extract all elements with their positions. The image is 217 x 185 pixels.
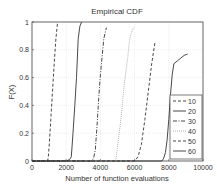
y-tick-label: 0.2 — [19, 130, 29, 137]
series-10-line — [32, 22, 58, 161]
series-50-line — [32, 42, 155, 162]
y-axis-label: F(X) — [7, 84, 16, 99]
x-tick-label: 6000 — [127, 164, 143, 171]
x-tick-label: 4000 — [93, 164, 109, 171]
y-tick-label: 1 — [25, 19, 29, 26]
legend-box — [170, 95, 202, 159]
series-30-line — [32, 28, 106, 161]
x-axis-label: Number of function evaluations — [65, 174, 169, 183]
x-tick-label: 10000 — [193, 164, 213, 171]
x-tick-label: 8000 — [161, 164, 177, 171]
y-tick-label: 0.6 — [19, 74, 29, 81]
x-tick-label: 2000 — [58, 164, 74, 171]
legend-label: 50 — [188, 138, 196, 145]
series-40-line — [32, 28, 134, 161]
legend-label: 10 — [188, 98, 196, 105]
legend: 102030405060 — [170, 95, 202, 159]
legend-label: 60 — [188, 148, 196, 155]
y-tick-label: 0 — [25, 158, 29, 165]
y-tick-label: 0.8 — [19, 46, 29, 53]
series-lines — [32, 22, 188, 161]
cdf-chart: Empirical CDF 0200040006000800010000 00.… — [0, 0, 217, 185]
chart-title: Empirical CDF — [91, 7, 143, 16]
y-tick-label: 0.4 — [19, 102, 29, 109]
series-60-line — [32, 54, 188, 161]
x-tick-label: 0 — [30, 164, 34, 171]
series-20-line — [32, 22, 82, 161]
legend-label: 20 — [188, 108, 196, 115]
legend-label: 40 — [188, 128, 196, 135]
legend-label: 30 — [188, 118, 196, 125]
